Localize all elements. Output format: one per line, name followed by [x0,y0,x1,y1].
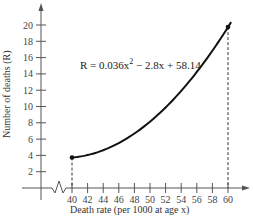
x-axis-title: Death rate (per 1000 at age x) [70,204,189,216]
endpoint-dot [70,155,75,160]
y-tick-label: 10 [23,101,33,112]
dashed-guides [72,27,228,188]
y-axis-title: Number of deaths (R) [1,51,13,138]
x-axis-arrow-icon [242,186,250,191]
y-tick-label: 6 [28,134,33,145]
y-tick-label: 8 [28,117,33,128]
x-tick-label: 56 [192,194,202,205]
x-ticks: 4042444648505254565860 [67,183,233,205]
curve-line [72,22,231,157]
x-tick-label: 58 [207,194,217,205]
y-tick-label: 20 [23,20,33,31]
y-tick-label: 4 [28,150,33,161]
y-tick-label: 2 [28,166,33,177]
y-ticks: 2468101214161820 [23,20,46,178]
y-tick-label: 16 [23,52,33,63]
equation-label: R = 0.036x2 − 2.8x + 58.14 [80,57,201,71]
axes [22,3,250,200]
y-tick-label: 14 [23,68,33,79]
y-tick-label: 18 [23,36,33,47]
chart: 2468101214161820 4042444648505254565860 … [0,0,253,218]
y-tick-label: 12 [23,85,33,96]
endpoint-dot [226,25,231,30]
y-axis-arrow-icon [39,3,44,11]
x-tick-label: 60 [223,194,233,205]
endpoints [70,25,231,160]
